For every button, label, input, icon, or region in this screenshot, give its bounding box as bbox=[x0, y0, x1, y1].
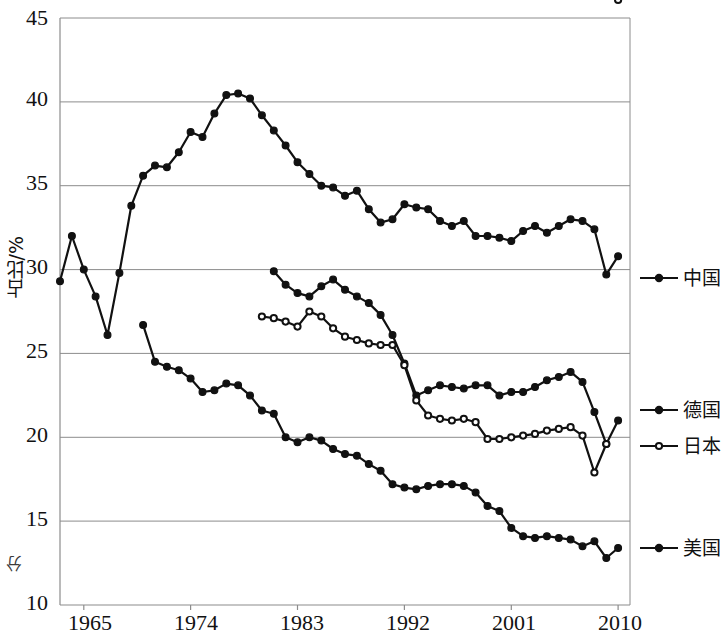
series-3-point-34 bbox=[544, 533, 551, 540]
series-0-point-31 bbox=[425, 206, 432, 213]
series-3-point-28 bbox=[472, 489, 479, 496]
series-2-point-15 bbox=[437, 416, 443, 422]
series-2-point-12 bbox=[401, 362, 407, 368]
series-3-point-33 bbox=[532, 535, 539, 542]
series-0-point-26 bbox=[365, 206, 372, 213]
series-1-point-18 bbox=[484, 382, 491, 389]
series-3-point-32 bbox=[520, 533, 527, 540]
series-1-point-29 bbox=[615, 417, 622, 424]
series-0-point-15 bbox=[235, 90, 242, 97]
series-0-point-8 bbox=[152, 162, 159, 169]
series-2-point-3 bbox=[294, 324, 300, 330]
series-3-point-38 bbox=[591, 538, 598, 545]
series-0-point-2 bbox=[80, 266, 87, 273]
series-1-point-5 bbox=[330, 276, 337, 283]
series-1-point-26 bbox=[579, 379, 586, 386]
plot-frame bbox=[60, 18, 630, 605]
series-0-point-38 bbox=[508, 238, 515, 245]
series-0-point-43 bbox=[567, 216, 574, 223]
series-2-point-21 bbox=[508, 434, 514, 440]
series-1-point-0 bbox=[270, 268, 277, 275]
series-0-point-39 bbox=[520, 228, 527, 235]
series-1-point-21 bbox=[520, 389, 527, 396]
series-3-point-27 bbox=[460, 483, 467, 490]
series-2-point-20 bbox=[496, 436, 502, 442]
series-0-point-5 bbox=[116, 270, 123, 277]
series-0-point-10 bbox=[175, 149, 182, 156]
series-2-point-24 bbox=[544, 428, 550, 434]
series-1-point-23 bbox=[544, 377, 551, 384]
series-0-point-12 bbox=[199, 134, 206, 141]
series-3-point-25 bbox=[437, 481, 444, 488]
series-0-point-33 bbox=[449, 223, 456, 230]
series-1-point-15 bbox=[449, 384, 456, 391]
x-tick-2010: 2010 bbox=[585, 612, 655, 634]
series-2-point-11 bbox=[389, 342, 395, 348]
series-3-point-20 bbox=[377, 467, 384, 474]
series-2-point-19 bbox=[484, 436, 490, 442]
series-2-point-7 bbox=[342, 334, 348, 340]
series-2-point-14 bbox=[425, 412, 431, 418]
legend-marker-germany bbox=[655, 406, 662, 413]
series-0-point-27 bbox=[377, 219, 384, 226]
series-3-point-26 bbox=[449, 481, 456, 488]
series-2-point-6 bbox=[330, 325, 336, 331]
series-3-point-39 bbox=[603, 555, 610, 562]
series-3-point-22 bbox=[401, 484, 408, 491]
series-1-point-6 bbox=[342, 286, 349, 293]
series-1-point-20 bbox=[508, 389, 515, 396]
x-tick-1974: 1974 bbox=[161, 612, 231, 634]
series-3-point-16 bbox=[330, 446, 337, 453]
series-0-point-16 bbox=[247, 95, 254, 102]
series-0-point-0 bbox=[57, 278, 64, 285]
series-3-point-30 bbox=[496, 508, 503, 515]
series-1-point-13 bbox=[425, 387, 432, 394]
series-3-point-6 bbox=[211, 387, 218, 394]
y-tick-20: 20 bbox=[6, 424, 48, 446]
x-tick-2001: 2001 bbox=[479, 612, 549, 634]
series-1-point-1 bbox=[282, 281, 289, 288]
series-2-point-10 bbox=[378, 342, 384, 348]
y-tick-25: 25 bbox=[6, 340, 48, 362]
series-3-point-21 bbox=[389, 481, 396, 488]
series-2-point-13 bbox=[413, 397, 419, 403]
series-1-point-9 bbox=[377, 312, 384, 319]
series-2-point-22 bbox=[520, 433, 526, 439]
series-2-point-2 bbox=[283, 319, 289, 325]
series-2-point-26 bbox=[568, 424, 574, 430]
y-tick-15: 15 bbox=[6, 508, 48, 530]
series-0-point-40 bbox=[532, 223, 539, 230]
series-3-point-0 bbox=[140, 322, 147, 329]
series-0-point-34 bbox=[460, 218, 467, 225]
y-tick-40: 40 bbox=[6, 88, 48, 110]
series-2-point-8 bbox=[354, 337, 360, 343]
series-2-point-17 bbox=[461, 416, 467, 422]
series-0-point-45 bbox=[591, 226, 598, 233]
series-2-point-4 bbox=[306, 308, 312, 314]
series-3-point-2 bbox=[164, 363, 171, 370]
series-3-point-3 bbox=[175, 367, 182, 374]
series-line-3 bbox=[143, 325, 618, 558]
series-0-point-41 bbox=[544, 229, 551, 236]
series-0-point-13 bbox=[211, 110, 218, 117]
series-3-point-35 bbox=[555, 535, 562, 542]
series-3-point-19 bbox=[365, 461, 372, 468]
series-3-point-15 bbox=[318, 437, 325, 444]
gridlines bbox=[60, 18, 630, 521]
series-3-point-5 bbox=[199, 389, 206, 396]
series-3-point-23 bbox=[413, 486, 420, 493]
series-0-point-42 bbox=[555, 223, 562, 230]
x-tick-1965: 1965 bbox=[55, 612, 125, 634]
series-2-point-0 bbox=[259, 313, 265, 319]
series-2-point-23 bbox=[532, 431, 538, 437]
series-1-point-4 bbox=[318, 283, 325, 290]
series-0-point-29 bbox=[401, 201, 408, 208]
series-3-point-18 bbox=[354, 452, 361, 459]
legend-label-usa: 美国 bbox=[683, 538, 721, 558]
series-3-point-4 bbox=[187, 375, 194, 382]
series-1-point-10 bbox=[389, 332, 396, 339]
legend-label-japan: 日本 bbox=[683, 436, 721, 456]
series-0-point-25 bbox=[354, 187, 361, 194]
